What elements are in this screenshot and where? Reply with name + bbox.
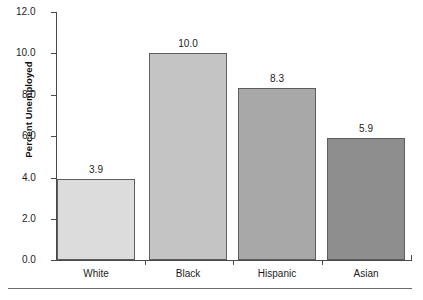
bar-asian	[327, 138, 405, 260]
x-axis-end-tick	[411, 255, 412, 261]
x-category-label-hispanic: Hispanic	[238, 268, 316, 279]
x-category-label-black: Black	[149, 268, 227, 279]
bar-chart-figure: Percent Unemployed 12.0 10.0 8.0 6.0 4.0…	[0, 0, 423, 300]
x-tick-3	[322, 260, 323, 265]
bar-value-black: 10.0	[149, 39, 227, 49]
x-tick-2	[233, 260, 234, 265]
x-tick-1	[145, 260, 146, 265]
x-category-label-white: White	[57, 268, 135, 279]
y-tick-0	[51, 260, 56, 261]
x-category-label-asian: Asian	[327, 268, 405, 279]
bar-value-hispanic: 8.3	[238, 74, 316, 84]
x-axis-line	[56, 260, 412, 261]
bar-black	[149, 53, 227, 260]
footer-horizontal-rule	[8, 288, 412, 289]
bar-white	[57, 179, 135, 260]
plot-area	[56, 12, 411, 260]
bar-value-asian: 5.9	[327, 124, 405, 134]
bar-value-white: 3.9	[57, 165, 135, 175]
y-axis-title: Percent Unemployed	[23, 40, 34, 180]
bar-hispanic	[238, 88, 316, 260]
